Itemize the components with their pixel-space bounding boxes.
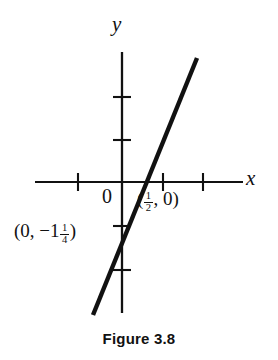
y-intercept-denominator: 4	[60, 235, 69, 246]
x-intercept-tail: , 0)	[153, 188, 178, 209]
x-intercept-open-paren: (	[137, 188, 143, 209]
figure-caption: Figure 3.8	[0, 330, 278, 347]
y-intercept-minus-sign: −	[39, 220, 50, 241]
y-intercept-fraction: 14	[60, 223, 69, 246]
y-intercept-lead: (0,	[14, 220, 35, 241]
y-axis-label: y	[112, 14, 121, 35]
x-intercept-fraction: 12	[144, 191, 153, 214]
origin-label: 0	[102, 186, 112, 206]
y-intercept-label: (0, −114)	[14, 221, 76, 244]
coordinate-plane-svg	[0, 0, 278, 326]
figure-3-8: y x 0 (12, 0) (0, −114) Figure 3.8	[0, 0, 278, 360]
x-axis-label: x	[246, 168, 255, 189]
x-intercept-label: (12, 0)	[137, 189, 179, 212]
x-intercept-numerator: 1	[144, 191, 153, 203]
y-intercept-whole-part: 1	[50, 220, 60, 241]
y-intercept-numerator: 1	[60, 223, 69, 235]
x-intercept-denominator: 2	[144, 203, 153, 214]
y-intercept-close-paren: )	[70, 220, 76, 241]
plot-area: y x 0 (12, 0) (0, −114)	[0, 0, 278, 326]
